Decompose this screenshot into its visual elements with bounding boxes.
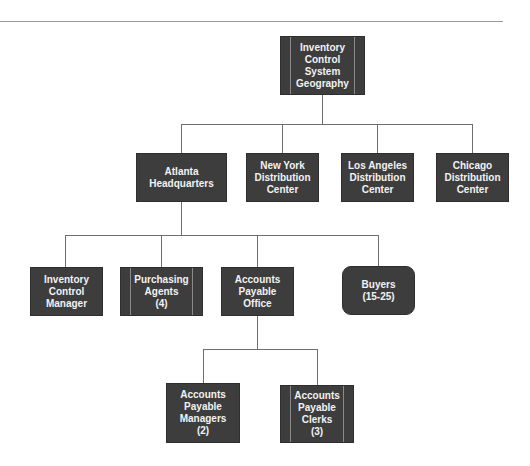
- connector: [472, 124, 473, 153]
- connector: [322, 95, 323, 124]
- connector: [161, 235, 162, 267]
- node-label: Purchasing Agents (4): [131, 274, 191, 310]
- node-atlanta-headquarters: Atlanta Headquarters: [136, 153, 227, 202]
- node-label: Chicago Distribution Center: [441, 160, 503, 196]
- top-rule: [0, 21, 503, 22]
- node-label: Atlanta Headquarters: [146, 166, 216, 190]
- connector: [282, 124, 283, 153]
- node-los-angeles-distribution-center: Los Angeles Distribution Center: [341, 153, 414, 202]
- connector: [317, 349, 318, 385]
- node-inventory-control-manager: Inventory Control Manager: [30, 267, 103, 316]
- node-chicago-distribution-center: Chicago Distribution Center: [436, 153, 509, 202]
- connector: [377, 124, 378, 153]
- node-accounts-payable-managers: Accounts Payable Managers (2): [166, 383, 240, 443]
- node-purchasing-agents: Purchasing Agents (4): [120, 267, 203, 316]
- node-accounts-payable-clerks: Accounts Payable Clerks (3): [280, 385, 354, 443]
- connector: [181, 124, 473, 125]
- connector: [203, 349, 204, 383]
- node-buyers: Buyers (15-25): [342, 266, 415, 315]
- node-label: Accounts Payable Office: [232, 274, 284, 310]
- connector: [181, 124, 182, 153]
- connector: [65, 235, 66, 267]
- node-label: Buyers (15-25): [359, 279, 399, 303]
- node-new-york-distribution-center: New York Distribution Center: [246, 153, 319, 202]
- node-label: Accounts Payable Clerks (3): [291, 390, 343, 438]
- node-label: New York Distribution Center: [251, 160, 313, 196]
- connector: [257, 316, 258, 349]
- node-label: Los Angeles Distribution Center: [345, 160, 410, 196]
- node-inventory-control-system-geography: Inventory Control System Geography: [280, 36, 365, 95]
- connector: [181, 202, 182, 235]
- connector: [203, 349, 318, 350]
- node-label: Accounts Payable Managers (2): [177, 389, 230, 437]
- connector: [257, 235, 258, 267]
- node-label: Inventory Control Manager: [41, 274, 92, 310]
- connector: [65, 235, 379, 236]
- node-accounts-payable-office: Accounts Payable Office: [221, 267, 294, 316]
- node-label: Inventory Control System Geography: [293, 42, 352, 90]
- connector: [378, 235, 379, 266]
